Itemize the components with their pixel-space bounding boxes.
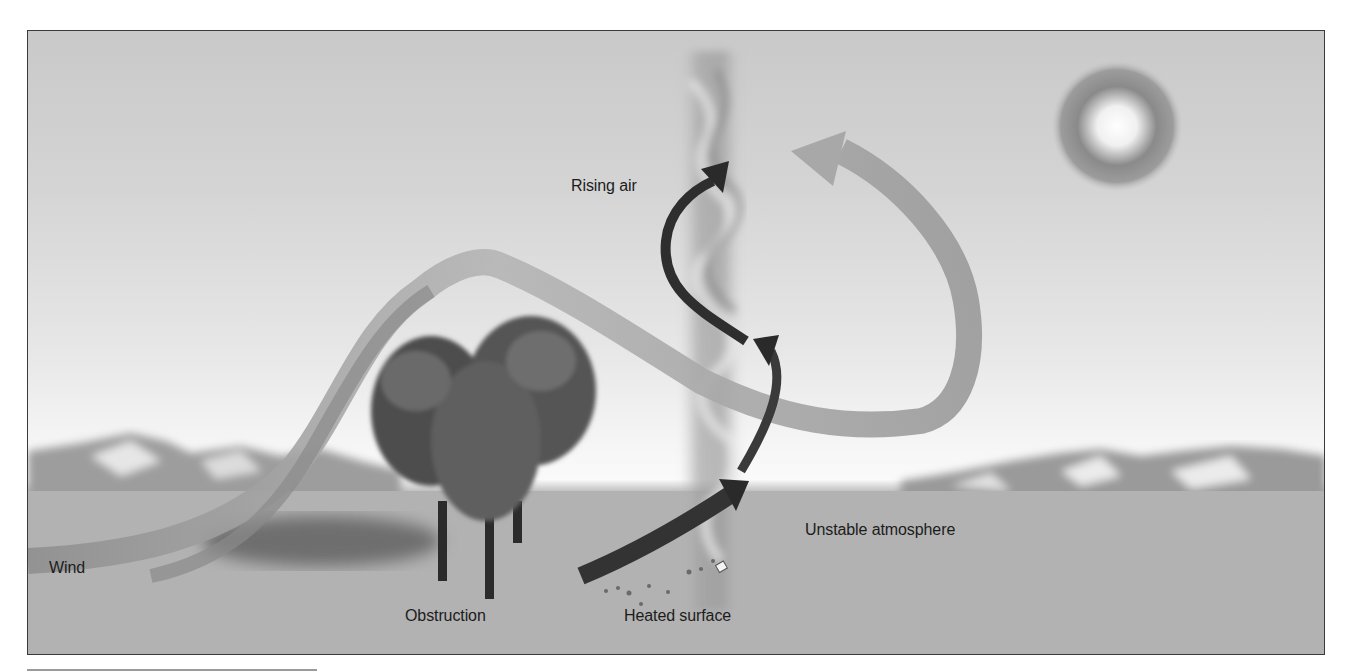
obstruction-label: Obstruction [405, 607, 486, 625]
unstable-atmosphere-label: Unstable atmosphere [805, 521, 955, 539]
rising-air-label: Rising air [571, 177, 637, 195]
mountains-left [28, 433, 401, 501]
heated-surface-label: Heated surface [624, 607, 731, 625]
dust-devil-diagram: Rising air Wind Obstruction Heated surfa… [27, 30, 1325, 655]
caption-rule [27, 669, 317, 671]
wind-label: Wind [49, 559, 85, 577]
scene-illustration [28, 31, 1325, 655]
sun-icon [1051, 60, 1183, 192]
